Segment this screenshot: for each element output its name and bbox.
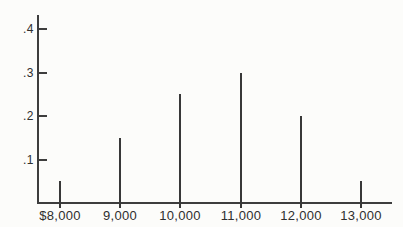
x-axis-line [37,202,392,204]
x-tick-label: 13,000 [326,209,396,223]
y-tick-mark [39,159,47,161]
spike-3 [240,73,242,208]
probability-spike-chart: .1.2.3.4 $8,0009,00010,00011,00012,00013… [0,0,403,227]
spike-1 [119,138,121,208]
y-tick-label: .1 [2,154,34,166]
y-tick-label: .3 [2,67,34,79]
y-tick-mark [39,115,47,117]
y-tick-label: .4 [2,23,34,35]
y-tick-label: .2 [2,110,34,122]
y-axis-line [37,15,39,204]
y-tick-mark [39,28,47,30]
x-tick-label: 10,000 [145,209,215,223]
spike-5 [360,181,362,208]
y-tick-mark [39,72,47,74]
spike-4 [300,116,302,208]
spike-2 [179,94,181,208]
spike-0 [59,181,61,208]
